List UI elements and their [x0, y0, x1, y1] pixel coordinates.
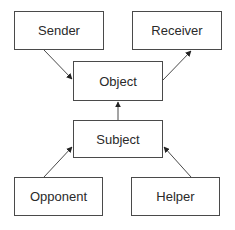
edge-object-to-receiver: [163, 51, 191, 80]
node-opponent: Opponent: [14, 177, 103, 216]
edge-sender-to-object: [44, 50, 72, 79]
node-label: Subject: [96, 132, 139, 147]
node-receiver: Receiver: [132, 11, 222, 50]
node-label: Object: [99, 74, 137, 89]
node-label: Helper: [156, 189, 194, 204]
edge-opponent-to-subject: [44, 147, 72, 177]
node-label: Opponent: [30, 189, 87, 204]
node-subject: Subject: [73, 120, 163, 158]
node-helper: Helper: [131, 177, 220, 216]
node-sender: Sender: [14, 11, 104, 50]
node-label: Receiver: [151, 23, 202, 38]
node-label: Sender: [38, 23, 80, 38]
node-object: Object: [73, 61, 163, 101]
edge-helper-to-subject: [164, 147, 191, 177]
